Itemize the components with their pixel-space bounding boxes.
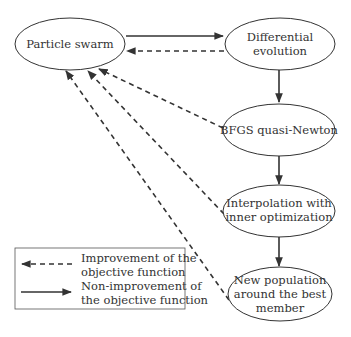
- node-label: inner optimization: [225, 210, 333, 224]
- node-label: member: [256, 301, 305, 315]
- legend: Improvement of the objective function No…: [15, 248, 209, 309]
- node-label: BFGS quasi-Newton: [220, 123, 338, 137]
- legend-solid-label: Non-improvement of: [81, 279, 202, 293]
- node-differential-evolution: Differential evolution: [225, 18, 335, 70]
- flow-diagram: Particle swarm Differential evolution BF…: [0, 0, 351, 337]
- edge-interp-to-ps: [88, 71, 224, 214]
- legend-dashed-label: Improvement of the: [81, 251, 197, 265]
- node-particle-swarm: Particle swarm: [15, 18, 125, 70]
- node-label: around the best: [234, 287, 327, 301]
- node-interpolation: Interpolation with inner optimization: [223, 185, 335, 237]
- node-bfgs: BFGS quasi-Newton: [220, 104, 338, 156]
- node-label: Particle swarm: [26, 37, 114, 51]
- edge-bfgs-to-ps: [99, 69, 223, 128]
- legend-solid-label: the objective function: [81, 293, 209, 307]
- node-new-population: New population around the best member: [228, 267, 332, 321]
- legend-dashed-label: objective function: [81, 265, 186, 279]
- node-label: New population: [234, 273, 327, 287]
- node-label: Differential: [247, 30, 314, 44]
- node-label: Interpolation with: [226, 196, 332, 210]
- node-label: evolution: [253, 44, 308, 58]
